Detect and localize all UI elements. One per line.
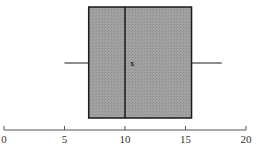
tick-label: 15	[180, 133, 192, 145]
x-axis-ticks: 05101520	[1, 126, 252, 145]
box	[89, 7, 192, 118]
tick-label: 20	[241, 133, 253, 145]
tick-label: 10	[120, 133, 132, 145]
tick-label: 0	[1, 133, 7, 145]
mean-marker: x	[130, 59, 134, 68]
mean-x-marker: x	[130, 59, 134, 68]
tick-label: 5	[62, 133, 68, 145]
box-plot-chart: x 05101520	[0, 0, 259, 149]
interquartile-box	[89, 7, 192, 118]
